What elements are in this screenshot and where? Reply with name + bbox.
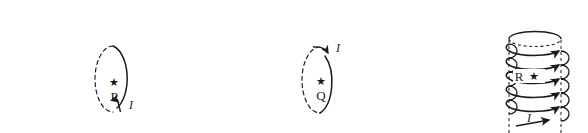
star-icon-r: ★: [529, 70, 539, 83]
solenoid-turn-1-right-back: [561, 51, 569, 65]
panel-current-loop-q: ★ Q I: [302, 41, 341, 113]
current-label-q: I: [335, 41, 341, 55]
figure-svg: ★ P I ★ Q I: [0, 0, 588, 133]
panel-current-loop-p: ★ P I: [95, 46, 134, 112]
star-icon-p: ★: [109, 76, 119, 89]
solenoid-turn-4-right-back: [561, 93, 569, 107]
panel-solenoid-r: R ★ I: [506, 32, 569, 133]
point-label-p: P: [110, 89, 117, 104]
solenoid-current-arrow: [516, 120, 549, 126]
solenoid-turn-2-right-back: [561, 65, 569, 79]
solenoid-top-cap-front: [509, 32, 561, 39]
solenoid-turn-3-right-back: [561, 79, 569, 93]
solenoid-turn-5-right-back: [561, 107, 569, 121]
star-icon-q: ★: [316, 75, 326, 88]
solenoid-top-cap-back: [509, 39, 561, 47]
point-label-q: Q: [316, 88, 326, 103]
current-label-p: I: [128, 98, 134, 112]
point-label-r: R: [515, 69, 524, 84]
loop-q-top-curve: [313, 47, 328, 53]
physics-figure-canvas: ★ P I ★ Q I: [0, 0, 588, 133]
